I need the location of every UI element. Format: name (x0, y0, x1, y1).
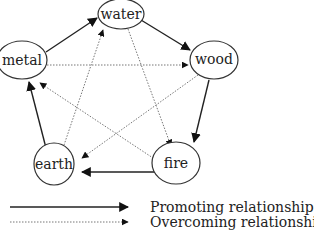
five-elements-diagram: water metal wood earth fire Promoting re… (0, 0, 314, 232)
edge-water-to-wood (141, 20, 190, 50)
edge-water-to-fire (128, 29, 171, 146)
edge-wood-to-fire (194, 80, 209, 142)
edge-earth-to-metal (29, 82, 46, 148)
node-earth: earth (34, 143, 74, 185)
node-earth-label: earth (35, 156, 73, 172)
node-fire-label: fire (164, 155, 188, 171)
overcoming-edges (40, 29, 198, 160)
legend: Promoting relationship Overcoming relati… (10, 199, 314, 230)
legend-overcoming-label: Overcoming relationship (150, 214, 314, 230)
node-wood-label: wood (195, 51, 233, 67)
node-fire: fire (152, 142, 200, 184)
node-metal-label: metal (2, 52, 43, 68)
legend-promoting-label: Promoting relationship (150, 199, 314, 215)
node-water-label: water (101, 6, 142, 22)
edge-metal-to-water (46, 18, 97, 52)
node-metal: metal (0, 41, 47, 79)
edge-earth-to-water (63, 30, 103, 148)
node-water: water (98, 0, 144, 29)
node-wood: wood (190, 41, 238, 79)
